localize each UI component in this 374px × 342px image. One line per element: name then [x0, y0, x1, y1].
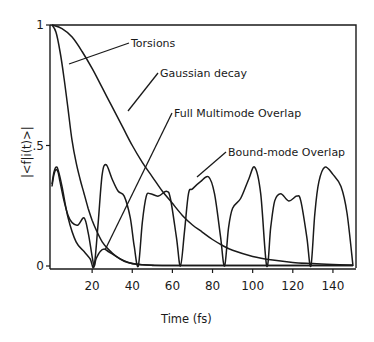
x-tick-label: 100 [241, 279, 264, 293]
bound-mode-annotation: Bound-mode Overlap [228, 146, 345, 159]
x-tick-label: 60 [165, 279, 180, 293]
chart: 204060801001201400.51 Torsions Gaussian … [0, 0, 374, 342]
x-tick-label: 80 [205, 279, 220, 293]
x-tick-label: 120 [281, 279, 304, 293]
full-multimode-annotation: Full Multimode Overlap [174, 107, 301, 120]
bound-mode-overlap-curve [52, 165, 353, 268]
x-tick-label: 40 [125, 279, 140, 293]
y-tick-label: .5 [33, 139, 44, 153]
torsions-annotation: Torsions [130, 37, 176, 50]
x-tick-label: 20 [84, 279, 99, 293]
full-multimode-leader-line [105, 113, 172, 250]
y-axis-label: |<f|i(t)>| [20, 126, 34, 178]
gaussian-leader-line [128, 73, 158, 111]
y-tick-label: 0 [36, 259, 44, 273]
y-tick-label: 1 [36, 18, 44, 32]
x-axis-label: Time (fs) [160, 312, 212, 326]
x-tick-label: 140 [321, 279, 344, 293]
gaussian-annotation: Gaussian decay [160, 67, 248, 80]
bound-mode-leader-line [197, 152, 226, 177]
